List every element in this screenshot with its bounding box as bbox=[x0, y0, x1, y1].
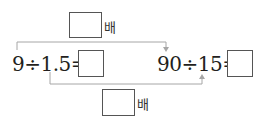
top-multiplier-unit: 배 bbox=[104, 17, 116, 36]
right-equation-answer-box[interactable] bbox=[227, 50, 253, 77]
bottom-multiplier-unit: 배 bbox=[137, 94, 149, 113]
left-equation-answer-box[interactable] bbox=[78, 50, 104, 77]
bottom-multiplier-answer-box[interactable] bbox=[102, 89, 135, 116]
left-equation-expression: 9÷1.5= bbox=[12, 54, 87, 74]
top-multiplier-answer-box[interactable] bbox=[69, 12, 102, 38]
